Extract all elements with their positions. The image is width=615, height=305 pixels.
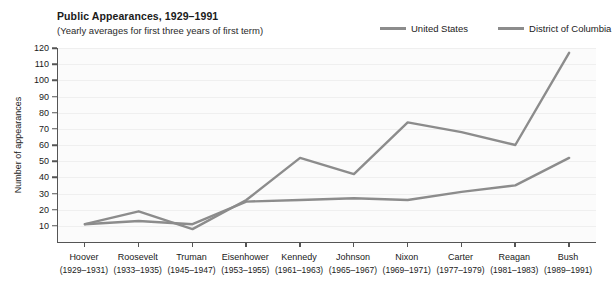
x-tick-name: Hoover (69, 252, 98, 262)
plot-area (57, 48, 596, 243)
legend-swatch-icon (380, 27, 406, 30)
y-tick-label: 70 (9, 124, 49, 134)
y-tick-label: 60 (9, 140, 49, 150)
chart-subtitle: (Yearly averages for first three years o… (57, 25, 263, 36)
x-tick-mark (514, 242, 516, 247)
legend-label: United States (411, 23, 468, 34)
x-tick-years: (1989–1991) (531, 264, 605, 277)
x-tick-name: Johnson (336, 252, 370, 262)
y-tick-label: 20 (9, 205, 49, 215)
x-tick-mark (407, 242, 409, 247)
x-tick-name: Roosevelt (118, 252, 158, 262)
chart-title: Public Appearances, 1929–1991 (57, 10, 218, 22)
legend-label: District of Columbia (529, 23, 611, 34)
x-tick-name: Reagan (499, 252, 531, 262)
series-line-united-states (85, 158, 569, 224)
x-tick-name: Truman (176, 252, 207, 262)
x-tick-mark (138, 242, 140, 247)
x-tick-mark (353, 242, 355, 247)
y-tick-label: 30 (9, 189, 49, 199)
legend-item-united-states[interactable]: United States (380, 23, 468, 34)
chart-legend: United States District of Columbia (380, 23, 611, 34)
x-tick-mark (84, 242, 86, 247)
x-tick-mark (245, 242, 247, 247)
legend-item-district-of-columbia[interactable]: District of Columbia (498, 23, 611, 34)
y-tick-label: 50 (9, 156, 49, 166)
x-tick-name: Carter (448, 252, 473, 262)
x-tick-name: Kennedy (281, 252, 317, 262)
x-tick-mark (192, 242, 194, 247)
y-tick-label: 90 (9, 92, 49, 102)
series-lines (58, 48, 596, 242)
y-tick-label: 120 (9, 43, 49, 53)
x-tick-label-bush: Bush(1989–1991) (531, 251, 605, 276)
x-tick-mark (461, 242, 463, 247)
legend-swatch-icon (498, 27, 524, 30)
plot-inner (58, 48, 596, 242)
y-tick-label: 100 (9, 75, 49, 85)
y-tick-label: 10 (9, 221, 49, 231)
series-line-district-of-columbia (85, 53, 569, 229)
x-tick-mark (568, 242, 570, 247)
x-tick-name: Bush (558, 252, 579, 262)
x-tick-mark (299, 242, 301, 247)
chart-container: Public Appearances, 1929–1991 (Yearly av… (0, 0, 615, 305)
y-tick-label: 80 (9, 108, 49, 118)
y-tick-label: 110 (9, 59, 49, 69)
y-tick-label: 40 (9, 172, 49, 182)
x-tick-name: Nixon (395, 252, 418, 262)
